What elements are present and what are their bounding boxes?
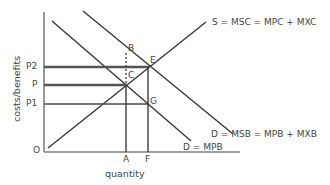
social-demand-curve-line [83, 11, 233, 134]
point-label-g: G [150, 97, 157, 106]
origin-label: O [33, 146, 40, 155]
externality-diagram-svg [0, 0, 330, 185]
point-label-e: E [150, 56, 156, 65]
x-axis-title: quantity [105, 168, 145, 179]
diagram-canvas: costs/benefits quantity O P2 P P1 A F B … [0, 0, 330, 185]
supply-curve-label: S = MSC = MPC + MXC [212, 18, 316, 27]
quantity-tick-a: A [123, 155, 129, 164]
price-tick-p2: P2 [26, 62, 37, 71]
private-demand-curve-label: D = MPB [183, 143, 223, 152]
price-tick-p1: P1 [26, 99, 37, 108]
point-label-b: B [128, 44, 134, 53]
quantity-tick-f: F [145, 155, 150, 164]
social-demand-curve-label: D = MSB = MPB + MXB [211, 130, 317, 139]
point-label-c: C [128, 71, 134, 80]
private-demand-curve-line [52, 21, 191, 141]
price-tick-p: P [32, 80, 37, 89]
y-axis-title: costs/benefits [11, 56, 22, 122]
